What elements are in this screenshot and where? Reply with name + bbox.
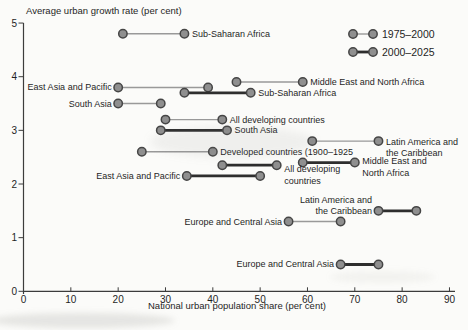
legend-label: 2000–2025 — [382, 46, 435, 58]
legend-item-2000-2025: 2000–2025 — [349, 46, 435, 58]
data-point — [246, 89, 254, 97]
x-tick-label: 20 — [113, 294, 125, 305]
x-tick-label: 90 — [444, 294, 456, 305]
y-tick-label: 0 — [11, 286, 17, 297]
data-point — [209, 148, 217, 156]
series-label: Middle East and North Africa — [310, 77, 424, 87]
dumbbell-chart: Average urban growth rate (per cent) 012… — [0, 0, 468, 330]
legend: 1975–20002000–2025 — [349, 28, 435, 58]
series-label: East Asia and Pacific — [28, 82, 113, 92]
y-axis-title: Average urban growth rate (per cent) — [26, 5, 182, 16]
series-middle-east-and-north-africa-1975-2000: Middle East and North Africa — [232, 77, 424, 87]
data-point — [374, 137, 382, 145]
series-south-asia-1975-2000: South Asia — [69, 99, 165, 109]
data-point — [284, 217, 292, 225]
series-europe-and-central-asia-1975-2000: Europe and Central Asia — [184, 217, 344, 227]
series-label: Europe and Central Asia — [237, 259, 335, 269]
data-point — [336, 260, 344, 268]
series-label: East Asia and Pacific — [96, 171, 181, 181]
series-all-developing-countries-1975-2000: All developing countries — [161, 115, 325, 125]
series-label: South Asia — [235, 125, 278, 135]
data-point — [157, 99, 165, 107]
x-tick-label: 0 — [21, 294, 27, 305]
legend-marker-dot — [369, 30, 377, 38]
series-sub-saharan-africa-1975-2000: Sub-Saharan Africa — [119, 29, 270, 39]
series-label: Developed countries (1900–1925 — [220, 147, 353, 157]
data-point — [218, 161, 226, 169]
data-point — [299, 78, 307, 86]
series-label: All developing countries — [230, 115, 326, 125]
x-tick-label: 70 — [349, 294, 361, 305]
x-tick-label: 80 — [397, 294, 409, 305]
scanned-chart-page: Average urban growth rate (per cent) 012… — [0, 0, 468, 330]
series-label: Sub-Saharan Africa — [192, 29, 270, 39]
series-label: Middle East andNorth Africa — [362, 156, 427, 178]
series-developed-countries-1900-1925-1900-1925: Developed countries (1900–1925 — [138, 147, 353, 157]
series-label: South Asia — [69, 99, 112, 109]
data-point — [412, 207, 420, 215]
series-south-asia-2000-2025: South Asia — [157, 125, 278, 135]
data-point — [161, 115, 169, 123]
series-layer: Sub-Saharan AfricaMiddle East and North … — [28, 29, 458, 270]
data-point — [157, 126, 165, 134]
data-point — [183, 172, 191, 180]
series-europe-and-central-asia-2000-2025: Europe and Central Asia — [237, 259, 383, 269]
data-point — [256, 172, 264, 180]
data-point — [180, 30, 188, 38]
data-point — [273, 161, 281, 169]
data-point — [351, 158, 359, 166]
data-point — [218, 115, 226, 123]
series-label: Sub-Saharan Africa — [258, 88, 336, 98]
y-tick-label: 4 — [11, 71, 17, 82]
data-point — [119, 30, 127, 38]
data-point — [114, 83, 122, 91]
data-point — [374, 260, 382, 268]
data-point — [374, 207, 382, 215]
data-point — [114, 99, 122, 107]
legend-marker-dot — [349, 48, 357, 56]
data-point — [336, 217, 344, 225]
y-tick-label: 2 — [11, 179, 17, 190]
data-point — [180, 89, 188, 97]
y-tick-label: 1 — [11, 232, 17, 243]
series-east-asia-and-pacific-2000-2025: East Asia and Pacific — [96, 171, 264, 181]
data-point — [232, 78, 240, 86]
series-label: Latin America andthe Caribbean — [300, 195, 372, 216]
data-point — [204, 83, 212, 91]
data-point — [223, 126, 231, 134]
data-point — [138, 148, 146, 156]
series-label: All developingcountries — [284, 164, 340, 186]
series-all-developing-countries-2000-2025: All developingcountries — [218, 161, 340, 186]
legend-marker-dot — [349, 30, 357, 38]
series-label: Europe and Central Asia — [184, 217, 282, 227]
legend-label: 1975–2000 — [382, 28, 435, 40]
x-tick-label: 10 — [65, 294, 77, 305]
y-tick-label: 3 — [11, 125, 17, 136]
y-tick-label: 5 — [11, 18, 17, 29]
series-latin-america-and-the-caribbean-2000-2025: Latin America andthe Caribbean — [300, 195, 421, 216]
x-axis-title: National urban population share (per cen… — [148, 300, 326, 311]
legend-marker-dot — [369, 48, 377, 56]
legend-item-1975-2000: 1975–2000 — [349, 28, 435, 40]
data-point — [308, 137, 316, 145]
